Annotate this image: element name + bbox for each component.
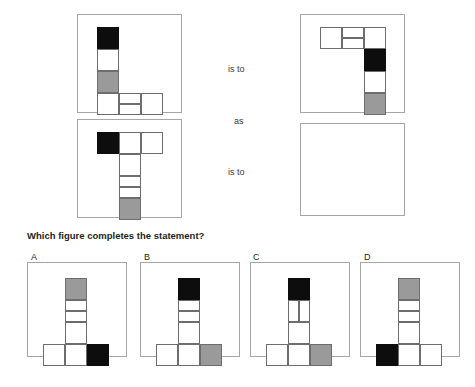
- option-a-figure-cell-3: [65, 322, 87, 344]
- stimulus-1-figure-cell-4: [119, 93, 141, 104]
- connector-1: is to: [228, 64, 245, 74]
- stimulus-3-figure-cell-4: [364, 49, 386, 71]
- option-c-figure-cell-3: [288, 322, 310, 344]
- option-c-figure-cell-0: [288, 278, 310, 300]
- option-b-figure-cell-2: [178, 311, 200, 322]
- option-b-figure-cell-5: [178, 344, 200, 366]
- option-c-figure-cell-5: [288, 344, 310, 366]
- stimulus-1-figure-cell-1: [97, 49, 119, 71]
- option-b-figure-cell-3: [178, 322, 200, 344]
- option-a[interactable]: [27, 262, 127, 357]
- option-d-figure-cell-0: [398, 278, 420, 300]
- option-a-figure-cell-6: [87, 344, 109, 366]
- stimulus-1-figure-cell-6: [141, 93, 163, 115]
- stimulus-3-figure-cell-6: [364, 93, 386, 115]
- answer-slot[interactable]: [300, 123, 405, 216]
- option-d-figure-cell-6: [420, 344, 442, 366]
- stimulus-2-figure-cell-6: [119, 198, 141, 220]
- stimulus-3-figure-cell-1: [342, 27, 364, 38]
- stimulus-1: [77, 14, 182, 113]
- option-d[interactable]: [360, 262, 460, 357]
- connector-2: as: [234, 116, 244, 126]
- option-c[interactable]: [250, 262, 350, 357]
- option-a-figure-cell-2: [65, 311, 87, 322]
- stimulus-3-figure-cell-2: [342, 38, 364, 49]
- option-a-figure-cell-4: [43, 344, 65, 366]
- option-b-figure-cell-0: [178, 278, 200, 300]
- option-b[interactable]: [140, 262, 240, 357]
- option-label-b: B: [144, 252, 150, 262]
- option-c-figure-cell-4: [266, 344, 288, 366]
- option-b-figure-cell-1: [178, 300, 200, 311]
- option-a-figure-cell-0: [65, 278, 87, 300]
- prompt-text: Which figure completes the statement?: [27, 230, 204, 241]
- stimulus-3-figure-cell-5: [364, 71, 386, 93]
- stimulus-1-figure-cell-2: [97, 71, 119, 93]
- stimulus-2-figure-cell-3: [119, 154, 141, 176]
- option-d-figure-cell-3: [398, 322, 420, 344]
- option-label-d: D: [364, 252, 371, 262]
- option-c-figure-cell-6: [310, 344, 332, 366]
- stimulus-1-figure-cell-5: [119, 104, 141, 115]
- stimulus-2-figure-cell-4: [119, 176, 141, 187]
- option-c-figure-cell-2: [299, 300, 310, 322]
- stimulus-2-figure-cell-0: [97, 132, 119, 154]
- stimulus-3-figure-cell-0: [320, 27, 342, 49]
- stimulus-1-figure-cell-3: [97, 93, 119, 115]
- option-a-figure-cell-5: [65, 344, 87, 366]
- option-d-figure-cell-2: [398, 311, 420, 322]
- stimulus-3-figure-cell-3: [364, 27, 386, 49]
- option-d-figure-cell-1: [398, 300, 420, 311]
- stimulus-2-figure-cell-5: [119, 187, 141, 198]
- stimulus-2-figure-cell-1: [119, 132, 141, 154]
- option-d-figure-cell-5: [398, 344, 420, 366]
- stimulus-3: [300, 14, 405, 113]
- connector-3: is to: [228, 167, 245, 177]
- stimulus-2: [77, 119, 182, 218]
- option-d-figure-cell-4: [376, 344, 398, 366]
- option-label-a: A: [31, 252, 37, 262]
- option-label-c: C: [253, 252, 260, 262]
- option-b-figure-cell-4: [156, 344, 178, 366]
- stimulus-1-figure-cell-0: [97, 27, 119, 49]
- option-a-figure-cell-1: [65, 300, 87, 311]
- option-c-figure-cell-1: [288, 300, 299, 322]
- stimulus-2-figure-cell-2: [141, 132, 163, 154]
- option-b-figure-cell-6: [200, 344, 222, 366]
